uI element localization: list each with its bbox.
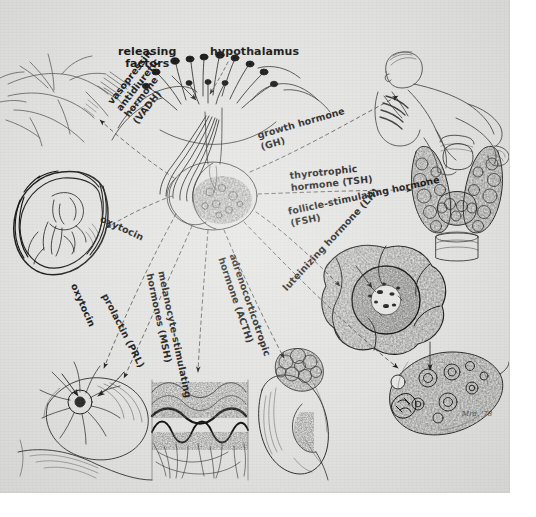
anatomical-artwork: [0, 0, 509, 492]
ovary-illustration: [390, 352, 509, 435]
ovarian-follicle-illustration: [322, 245, 446, 354]
arrow-vadh: [100, 120, 174, 178]
label-hypothalamus: hypothalamus: [210, 46, 299, 58]
uterus-fetus-illustration: [14, 171, 108, 275]
pointer-breast-2: [98, 372, 124, 396]
figure-page: releasing factors hypothalamus vasopress…: [0, 0, 536, 517]
illustration-plate: releasing factors hypothalamus vasopress…: [0, 0, 510, 493]
arrow-msh: [198, 230, 208, 372]
pointer-hypothalamus: [210, 62, 228, 94]
skin-cross-section-illustration: [152, 380, 248, 480]
adrenal-kidney-illustration: [259, 348, 329, 480]
mammary-gland-illustration: [18, 362, 152, 480]
artist-signature: Mrd. '78: [462, 410, 492, 418]
